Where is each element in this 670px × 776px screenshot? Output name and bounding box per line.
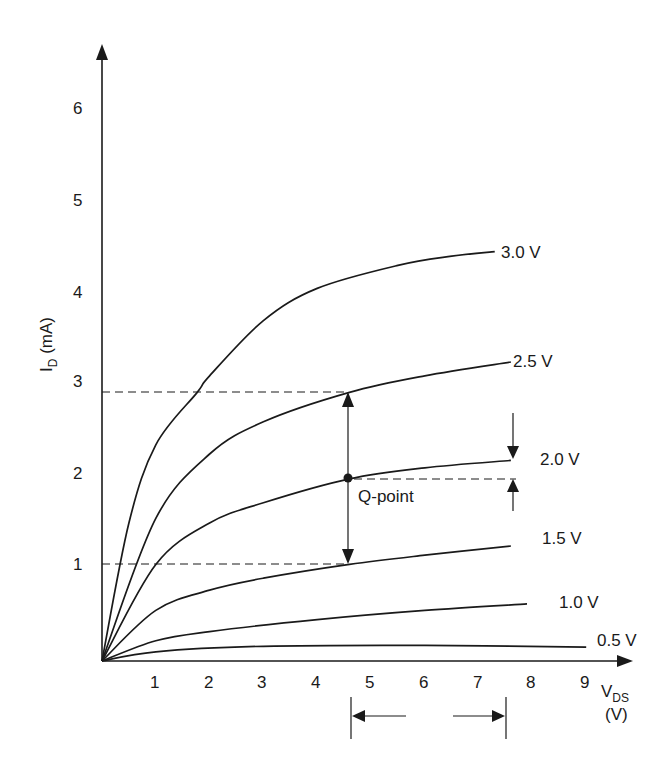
small-arrow-down-icon [507, 446, 519, 459]
vds-swing-left-arrow-icon [352, 710, 365, 722]
curve-10v [102, 604, 527, 661]
x-tick-6: 6 [419, 673, 428, 692]
vds-swing-right-arrow-icon [492, 710, 505, 722]
curve-label-0-5v: 0.5 V [597, 631, 637, 650]
y-axis-title: ID (mA) [37, 317, 60, 372]
y-axis-arrow-icon [96, 44, 108, 60]
id-vds-characteristic-chart: 6 5 4 3 2 1 1 2 3 4 5 6 7 8 9 ID (mA) VD… [0, 0, 670, 776]
curve-label-3v: 3.0 V [501, 243, 541, 262]
curve-labels: 3.0 V 2.5 V 2.0 V 1.5 V 1.0 V 0.5 V [501, 243, 637, 650]
curve-label-2v: 2.0 V [540, 450, 580, 469]
q-point-marker [344, 474, 353, 483]
curve-label-2-5v: 2.5 V [513, 352, 553, 371]
curve-30v [102, 252, 495, 661]
x-tick-labels: 1 2 3 4 5 6 7 8 9 [150, 673, 589, 692]
x-tick-2: 2 [204, 673, 213, 692]
small-arrow-up-icon [507, 479, 519, 492]
y-tick-6: 6 [73, 99, 82, 118]
curve-25v [102, 362, 511, 661]
y-tick-4: 4 [73, 283, 82, 302]
y-tick-5: 5 [73, 191, 82, 210]
x-tick-5: 5 [365, 673, 374, 692]
curve-15v [102, 546, 511, 661]
x-tick-9: 9 [580, 673, 589, 692]
id-swing-arrow-down-icon [342, 549, 354, 564]
y-tick-1: 1 [73, 555, 82, 574]
y-tick-3: 3 [73, 372, 82, 391]
y-tick-2: 2 [73, 464, 82, 483]
x-axis-arrow-icon [617, 655, 633, 667]
x-axis-title: VDS [601, 682, 629, 705]
curve-label-1-5v: 1.5 V [542, 529, 582, 548]
y-tick-labels: 6 5 4 3 2 1 [73, 99, 82, 574]
curve-label-1v: 1.0 V [559, 593, 599, 612]
x-tick-4: 4 [311, 673, 320, 692]
x-tick-1: 1 [150, 673, 159, 692]
q-point-label: Q-point [358, 487, 414, 506]
curve-05v [102, 645, 586, 661]
x-axis-unit: (V) [605, 705, 628, 724]
x-tick-3: 3 [257, 673, 266, 692]
x-tick-8: 8 [526, 673, 535, 692]
x-tick-7: 7 [473, 673, 482, 692]
curve-20v [102, 460, 511, 661]
